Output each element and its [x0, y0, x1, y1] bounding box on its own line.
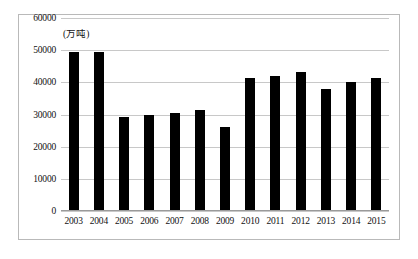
x-axis-tick-label: 2010 — [241, 216, 259, 226]
y-axis-tick-label: 20000 — [33, 142, 56, 152]
y-axis-tick-label: 40000 — [33, 77, 56, 87]
x-axis-tick-label: 2007 — [165, 216, 183, 226]
bar-slot: 2009 — [212, 18, 237, 211]
bar-slot: 2014 — [339, 18, 364, 211]
bars-group: 2003200420052006200720082009201020112012… — [61, 18, 389, 211]
y-axis-tick-label: 60000 — [33, 13, 56, 23]
bar-slot: 2013 — [313, 18, 338, 211]
x-axis-tick-label: 2003 — [65, 216, 83, 226]
bar-slot: 2003 — [61, 18, 86, 211]
x-axis-tick-label: 2008 — [191, 216, 209, 226]
x-axis-tick-label: 2012 — [292, 216, 310, 226]
x-axis-tick-label: 2011 — [267, 216, 285, 226]
bar — [270, 76, 280, 211]
x-axis-tick-label: 2004 — [90, 216, 108, 226]
bar — [296, 72, 306, 211]
bar — [69, 52, 79, 211]
y-axis-tick-label: 10000 — [33, 174, 56, 184]
x-axis-tick-label: 2013 — [317, 216, 335, 226]
x-axis-tick-label: 2009 — [216, 216, 234, 226]
bar-slot: 2010 — [238, 18, 263, 211]
bar-slot: 2006 — [137, 18, 162, 211]
bar — [321, 89, 331, 211]
gridline — [61, 211, 389, 212]
bar — [371, 78, 381, 211]
y-axis-tick-label: 30000 — [33, 110, 56, 120]
bar-slot: 2007 — [162, 18, 187, 211]
y-axis-tick-label: 0 — [51, 206, 56, 216]
bar — [346, 82, 356, 211]
bar — [144, 115, 154, 211]
plot-area: 0100002000030000400005000060000 20032004… — [61, 18, 389, 211]
x-axis-line — [61, 210, 389, 211]
bar-slot: 2015 — [364, 18, 389, 211]
bar-slot: 2012 — [288, 18, 313, 211]
bar — [119, 117, 129, 211]
bar-slot: 2005 — [111, 18, 136, 211]
bar — [245, 78, 255, 211]
x-axis-tick-label: 2015 — [367, 216, 385, 226]
bar — [195, 110, 205, 211]
bar — [170, 113, 180, 211]
bar — [94, 52, 104, 211]
y-axis-tick-label: 50000 — [33, 45, 56, 55]
x-axis-tick-label: 2014 — [342, 216, 360, 226]
bar — [220, 127, 230, 211]
bar-slot: 2011 — [263, 18, 288, 211]
x-axis-tick-label: 2006 — [140, 216, 158, 226]
bar-slot: 2004 — [86, 18, 111, 211]
x-axis-tick-label: 2005 — [115, 216, 133, 226]
bar-chart-figure: (万吨) 0100002000030000400005000060000 200… — [18, 14, 400, 240]
bar-slot: 2008 — [187, 18, 212, 211]
